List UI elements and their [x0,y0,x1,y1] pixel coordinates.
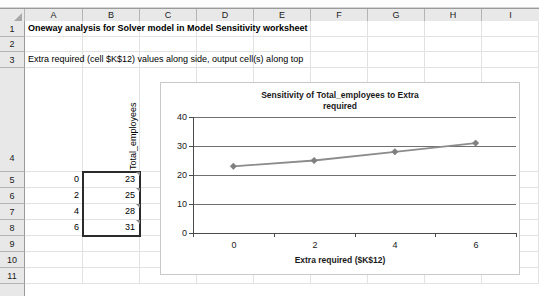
cell-a6-text: 2 [25,189,79,202]
cell-b2[interactable] [83,37,140,52]
row-header-8[interactable]: 8 [0,220,25,236]
cell-h3[interactable] [425,52,482,68]
chart-x-axis-title: Extra required ($K$12) [161,255,519,265]
chart-series-total-employees [161,83,519,274]
row-header-3[interactable]: 3 [0,52,25,68]
column-header-band: A B C D E F G H I [0,8,539,21]
row-header-2-label: 2 [0,37,24,52]
row-header-1[interactable]: 1 [0,21,25,37]
row-header-8-label: 8 [0,220,24,236]
cell-g1[interactable] [368,21,425,37]
row-header-3-label: 3 [0,52,24,68]
cell-a3-text: Extra required (cell $K$12) values along… [28,53,303,66]
row-header-4[interactable]: 4 [0,68,25,172]
row-header-1-label: 1 [0,21,24,37]
row-header-7[interactable]: 7 [0,204,25,220]
cell-i1[interactable] [482,21,539,37]
row-header-5[interactable]: 5 [0,172,25,188]
row-header-9[interactable]: 9 [0,236,25,252]
cell-b11[interactable] [83,268,140,284]
cell-b10[interactable] [83,252,140,268]
cell-a11[interactable] [25,268,83,284]
cell-b4-rotated-header: Total_employees [128,102,138,170]
cell-a4[interactable] [25,68,83,172]
cell-f2[interactable] [311,37,368,52]
row-header-6[interactable]: 6 [0,188,25,204]
cell-h1[interactable] [425,21,482,37]
comment-indicator-b7 [136,204,140,208]
cell-c2[interactable] [140,37,197,52]
row-header-11-label: 11 [0,268,24,284]
cell-a9[interactable] [25,236,83,252]
cell-a5-text: 0 [25,173,79,186]
cell-a1-text: Oneway analysis for Solver model in Mode… [28,22,308,35]
comment-indicator-b6 [136,188,140,192]
output-range-border [82,171,141,237]
cell-i3[interactable] [482,52,539,68]
chart-plot-area: 40 30 20 10 0 0 2 4 6 [161,83,519,274]
row-header-11[interactable]: 11 [0,268,25,284]
cell-d2[interactable] [197,37,254,52]
row-header-5-label: 5 [0,172,24,188]
cell-a8-text: 6 [25,221,79,234]
cell-f3[interactable] [311,52,368,68]
row-header-10-label: 10 [0,252,24,268]
cell-a7-text: 4 [25,205,79,218]
row-header-6-label: 6 [0,188,24,204]
comment-indicator-b5 [136,172,140,176]
row-header-7-label: 7 [0,204,24,220]
cell-i2[interactable] [482,37,539,52]
cell-e2[interactable] [254,37,311,52]
comment-indicator-b8 [136,220,140,224]
worksheet-top-edge [0,0,539,8]
row-header-10[interactable]: 10 [0,252,25,268]
cell-b9[interactable] [83,236,140,252]
cell-f1[interactable] [311,21,368,37]
row-header-gutter [0,284,25,296]
row-header-2[interactable]: 2 [0,37,25,52]
row-header-9-label: 9 [0,236,24,252]
spreadsheet-canvas: A B C D E F G H I 1 2 3 4 5 6 7 8 9 10 1… [0,0,539,296]
embedded-chart[interactable]: Sensitivity of Total_employees to Extra … [160,82,520,275]
cell-a10[interactable] [25,252,83,268]
cell-g2[interactable] [368,37,425,52]
cell-g3[interactable] [368,52,425,68]
cell-a2[interactable] [25,37,83,52]
cell-h2[interactable] [425,37,482,52]
select-all-triangle-icon [14,13,22,21]
